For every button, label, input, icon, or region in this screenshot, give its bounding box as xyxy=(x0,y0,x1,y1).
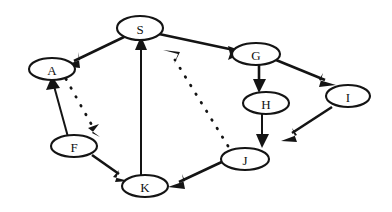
edge-a-f[interactable] xyxy=(66,79,100,137)
node-a[interactable]: A xyxy=(29,58,75,80)
node-f[interactable]: F xyxy=(51,135,97,157)
edge-h-j[interactable] xyxy=(256,114,269,148)
edge-g-h[interactable] xyxy=(253,65,266,93)
edge-j-s[interactable] xyxy=(163,50,228,146)
node-label-i: I xyxy=(346,90,350,105)
edge-k-s[interactable] xyxy=(135,36,147,176)
node-k[interactable]: K xyxy=(122,175,168,197)
node-label-s: S xyxy=(136,22,143,37)
edge-g-i[interactable] xyxy=(276,60,336,87)
node-g[interactable]: G xyxy=(232,43,280,65)
node-s[interactable]: S xyxy=(117,16,163,40)
graph-svg: S A G I H F xyxy=(0,0,392,212)
node-h[interactable]: H xyxy=(243,92,289,114)
node-j[interactable]: J xyxy=(221,148,269,170)
edge-layer xyxy=(46,34,336,189)
node-label-a: A xyxy=(47,63,57,78)
node-label-f: F xyxy=(70,140,77,155)
edge-f-a[interactable] xyxy=(46,76,68,137)
edge-i-j[interactable] xyxy=(281,107,332,142)
node-label-g: G xyxy=(251,48,260,63)
node-label-j: J xyxy=(242,153,247,168)
node-i[interactable]: I xyxy=(326,85,370,107)
diagram-canvas: S A G I H F xyxy=(0,0,392,212)
node-label-h: H xyxy=(261,97,270,112)
edge-j-k[interactable] xyxy=(168,160,226,189)
node-label-k: K xyxy=(140,180,150,195)
edge-f-k[interactable] xyxy=(92,155,129,182)
